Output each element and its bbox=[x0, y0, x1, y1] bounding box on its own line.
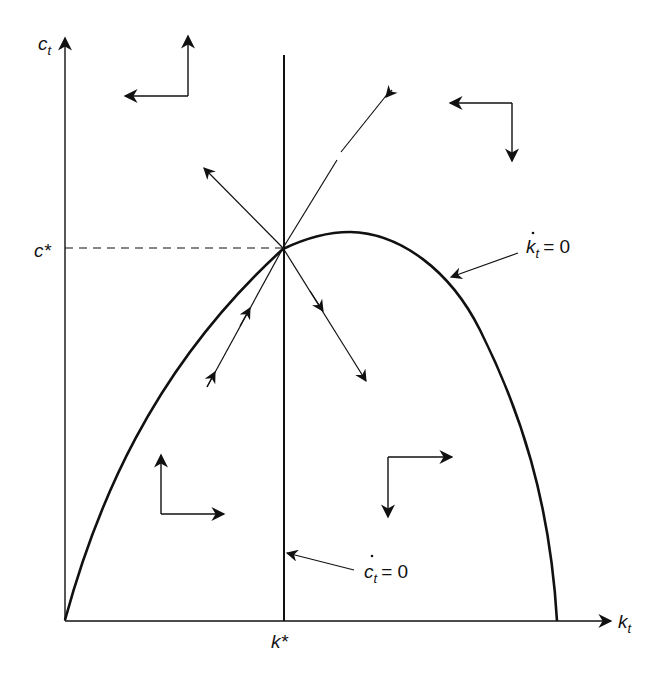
c-dot-zero-label: ct= 0 bbox=[364, 561, 408, 586]
x-axis-label: kt bbox=[618, 611, 633, 636]
y-axis-label: ct bbox=[38, 33, 53, 58]
direction-arrows-top-left bbox=[125, 36, 188, 96]
c-dot-marker bbox=[371, 555, 374, 558]
k-dot-marker bbox=[532, 232, 535, 235]
k-star-label: k* bbox=[271, 631, 289, 652]
diagram-canvas: ct kt c* k* bbox=[0, 0, 662, 680]
phase-diagram: ct kt c* k* bbox=[0, 0, 662, 680]
trajectory-unstable-lower-right bbox=[283, 248, 366, 381]
direction-arrows-bottom-right bbox=[388, 457, 452, 517]
c-dot-zero-annotation: ct= 0 bbox=[287, 553, 408, 586]
direction-arrows-bottom-left bbox=[161, 455, 224, 514]
direction-arrows-top-right bbox=[450, 103, 512, 161]
trajectory-saddle-path-upper bbox=[283, 90, 392, 248]
k-dot-zero-annotation: kt= 0 bbox=[451, 232, 570, 277]
k-dot-zero-locus bbox=[65, 232, 557, 621]
c-star-label: c* bbox=[34, 240, 52, 261]
k-dot-zero-label: kt= 0 bbox=[526, 236, 570, 261]
trajectory-unstable-upper-left bbox=[204, 168, 283, 248]
